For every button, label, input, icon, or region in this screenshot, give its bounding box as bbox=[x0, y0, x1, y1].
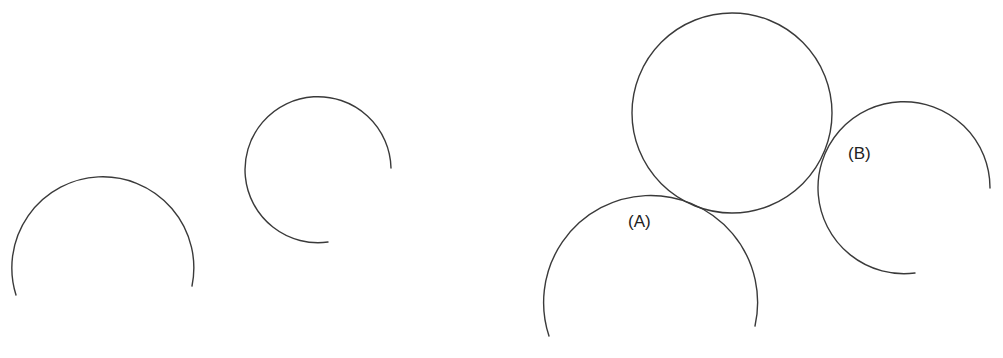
arc-2 bbox=[245, 97, 391, 243]
circle-top bbox=[632, 13, 832, 213]
label-b: (B) bbox=[848, 145, 871, 162]
diagram-canvas bbox=[0, 0, 1003, 358]
label-a: (A) bbox=[628, 213, 651, 230]
arc-1 bbox=[12, 177, 194, 295]
arc-b bbox=[818, 102, 990, 274]
